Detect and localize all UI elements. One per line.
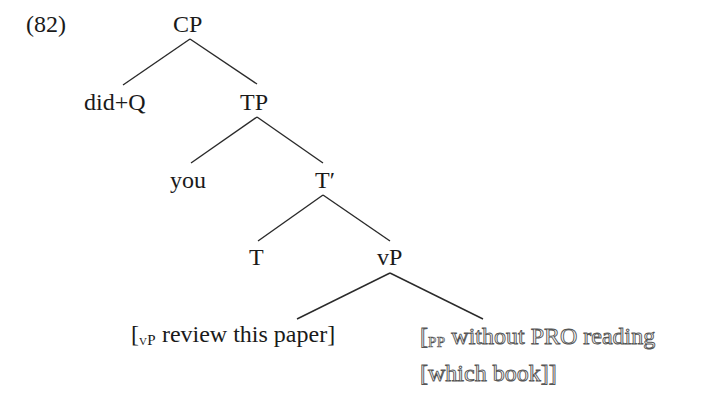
node-vp: vP [377,245,402,269]
vp-open-bracket: [ [131,321,139,347]
example-number: (82) [26,12,66,36]
edge-tp-you [191,117,257,163]
node-did-q: did+Q [84,90,146,114]
pp-line-1: [PP without PRO reading [420,321,655,358]
edge-tp-tbar [257,117,323,163]
vp-bracket-text: review this paper] [156,321,335,347]
edge-vp-ppbracket [390,273,483,319]
pp-line1-text: without PRO reading [445,323,655,349]
node-you: you [170,168,206,192]
leaf-pp-bracket: [PP without PRO reading [which book]] [420,321,655,389]
pp-line2-text: [which book]] [420,360,557,386]
node-tp: TP [240,90,268,114]
edge-cp-didq [123,39,190,85]
pp-subscript: PP [428,334,445,350]
edge-tbar-vp [323,195,390,241]
node-cp: CP [173,12,202,36]
pp-line-2: [which book]] [420,358,655,389]
pp-open-bracket: [ [420,323,428,349]
leaf-vp-bracket: [vP review this paper] [131,322,335,348]
edge-cp-tp [190,39,257,84]
vp-subscript: vP [139,332,156,348]
edge-vp-vpbracket [297,273,390,319]
edge-tbar-t [258,195,323,241]
node-t-bar: T′ [315,168,335,192]
node-t: T [249,245,264,269]
